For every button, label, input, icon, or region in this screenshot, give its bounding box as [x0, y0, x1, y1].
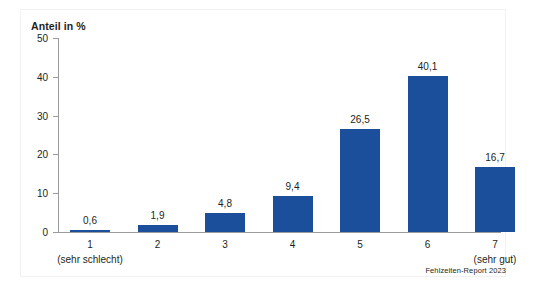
plot-area: 01020304050 0,61,94,89,426,540,116,7 1(s…	[0, 0, 540, 286]
x-axis-category-label: 1	[87, 239, 93, 250]
y-axis-line	[58, 38, 59, 233]
bar-value-label: 16,7	[485, 152, 504, 163]
bar-value-label: 1,9	[151, 210, 165, 221]
bar	[273, 196, 313, 232]
bar-value-label: 0,6	[83, 215, 97, 226]
y-axis-tick-label: 0	[0, 227, 48, 238]
y-axis-tick	[53, 116, 58, 117]
y-axis-tick-label: 20	[0, 149, 48, 160]
x-axis-category-label: 3	[222, 239, 228, 250]
y-axis-tick	[53, 38, 58, 39]
bar	[138, 225, 178, 232]
bar-value-label: 4,8	[218, 198, 232, 209]
y-axis-tick	[53, 232, 58, 233]
x-axis-category-label: 5	[357, 239, 363, 250]
x-axis-category-label: 4	[290, 239, 296, 250]
y-axis-tick	[53, 154, 58, 155]
bar	[205, 213, 245, 232]
y-axis-tick	[53, 77, 58, 78]
y-axis-tick-label: 10	[0, 188, 48, 199]
y-axis-tick	[53, 193, 58, 194]
bar-value-label: 9,4	[286, 181, 300, 192]
bar	[70, 230, 110, 232]
x-axis-category-sublabel: (sehr gut)	[474, 254, 517, 265]
x-axis-category-label: 2	[155, 239, 161, 250]
bar-value-label: 40,1	[418, 61, 437, 72]
y-axis-tick-label: 50	[0, 33, 48, 44]
chart-screenshot: Anteil in % 01020304050 0,61,94,89,426,5…	[0, 0, 540, 286]
bar	[475, 167, 515, 232]
bar-value-label: 26,5	[350, 114, 369, 125]
source-note: Fehlzeiten-Report 2023	[425, 266, 506, 275]
bar	[340, 129, 380, 232]
x-axis-category-label: 6	[425, 239, 431, 250]
x-axis-category-label: 7	[492, 239, 498, 250]
y-axis-tick-label: 40	[0, 71, 48, 82]
y-axis-tick-label: 30	[0, 110, 48, 121]
x-axis-category-sublabel: (sehr schlecht)	[57, 254, 123, 265]
x-axis-line	[58, 232, 501, 233]
bar	[408, 76, 448, 232]
